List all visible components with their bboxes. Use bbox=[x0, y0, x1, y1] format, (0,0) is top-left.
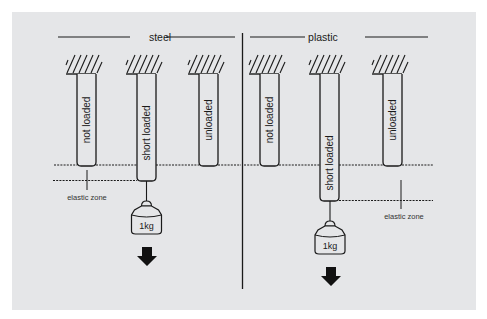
section-title-plastic: plastic bbox=[308, 31, 338, 43]
material-deformation-diagram: steel not loaded short loaded unloaded e… bbox=[0, 0, 487, 319]
rod-not-loaded: not loaded bbox=[260, 74, 279, 166]
fixed-support-icon bbox=[249, 55, 285, 74]
arrow-down-icon bbox=[321, 267, 341, 286]
rod-unloaded: unloaded bbox=[199, 74, 218, 166]
arrow-down-icon bbox=[137, 247, 157, 266]
rod-label: short loaded bbox=[324, 135, 335, 190]
rod-label: short loaded bbox=[141, 105, 152, 160]
rod-label: not loaded bbox=[264, 97, 275, 144]
weight-label: 1kg bbox=[139, 221, 154, 231]
rod-label: unloaded bbox=[387, 99, 398, 140]
fixed-support-icon bbox=[66, 55, 102, 74]
plastic-section: plastic not loaded short loaded unloaded… bbox=[244, 31, 433, 287]
rod-label: unloaded bbox=[203, 99, 214, 140]
rod-short-loaded: short loaded bbox=[137, 74, 156, 181]
steel-section: steel not loaded short loaded unloaded e… bbox=[53, 31, 241, 267]
rod-short-loaded: short loaded bbox=[320, 74, 339, 201]
fixed-support-icon bbox=[372, 55, 408, 74]
fixed-support-icon bbox=[309, 55, 345, 74]
rod-unloaded: unloaded bbox=[383, 74, 402, 166]
weight-label: 1kg bbox=[323, 241, 338, 251]
fixed-support-icon bbox=[188, 55, 224, 74]
rod-not-loaded: not loaded bbox=[77, 74, 96, 166]
fixed-support-icon bbox=[126, 55, 162, 74]
rod-label: not loaded bbox=[81, 97, 92, 144]
elastic-zone-label: elastic zone bbox=[384, 212, 424, 221]
elastic-zone-label: elastic zone bbox=[67, 193, 107, 202]
